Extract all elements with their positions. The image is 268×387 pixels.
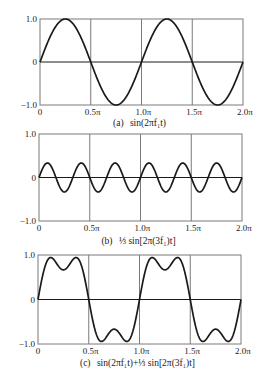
y-tick-bottom: −1.0	[21, 100, 38, 110]
y-tick-top: 1.0	[26, 14, 38, 24]
caption-prefix: (c)	[80, 358, 91, 369]
caption-formula: ⅓ sin[2π(3f₁)t]	[119, 236, 176, 247]
figure-canvas: 1.0 0 −1.0 0 0.5π 1.0π 1.5π 2.0π (a) sin…	[0, 0, 268, 387]
panel-c: 1.0 0 −1.0 0 0.5π 1.0π 1.5π 2.0π (c) sin…	[19, 250, 252, 369]
panel-a: 1.0 0 −1.0 0 0.5π 1.0π 1.5π 2.0π (a) sin…	[21, 14, 254, 129]
x-tick-1-5pi: 1.5π	[185, 223, 201, 233]
x-tick-0-5pi: 0.5π	[84, 223, 100, 233]
y-tick-zero: 0	[32, 173, 37, 183]
x-tick-1-5pi: 1.5π	[186, 107, 202, 117]
caption-prefix: (b)	[101, 236, 112, 247]
x-tick-0: 0	[37, 223, 42, 233]
y-tick-bottom: −1.0	[20, 216, 37, 226]
panel-b: 1.0 0 −1.0 0 0.5π 1.0π 1.5π 2.0π (b) ⅓ s…	[20, 129, 253, 247]
panel-caption: (b) ⅓ sin[2π(3f₁)t]	[101, 236, 175, 247]
y-tick-zero: 0	[33, 57, 38, 67]
x-tick-1-0pi: 1.0π	[135, 223, 151, 233]
x-tick-0: 0	[36, 346, 41, 356]
x-tick-1-0pi: 1.0π	[134, 346, 150, 356]
x-tick-1-0pi: 1.0π	[136, 107, 152, 117]
y-tick-zero: 0	[31, 295, 36, 305]
caption-formula: sin(2πf₁t)+⅓ sin[2π(3f₁)t]	[97, 358, 195, 369]
x-tick-1-5pi: 1.5π	[184, 346, 200, 356]
panel-caption: (a) sin(2πf₁t)	[113, 118, 166, 129]
x-tick-2-0pi: 2.0π	[237, 107, 253, 117]
y-tick-bottom: −1.0	[19, 339, 36, 349]
x-tick-2-0pi: 2.0π	[236, 223, 252, 233]
y-tick-top: 1.0	[25, 129, 37, 139]
x-tick-0: 0	[38, 107, 43, 117]
x-tick-0-5pi: 0.5π	[85, 107, 101, 117]
caption-prefix: (a)	[113, 118, 124, 129]
x-tick-2-0pi: 2.0π	[235, 346, 251, 356]
caption-formula: sin(2πf₁t)	[130, 118, 166, 129]
y-tick-top: 1.0	[24, 250, 36, 260]
panel-caption: (c) sin(2πf₁t)+⅓ sin[2π(3f₁)t]	[80, 358, 195, 369]
x-tick-0-5pi: 0.5π	[83, 346, 99, 356]
